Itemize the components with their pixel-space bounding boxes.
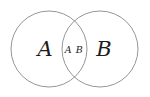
- intersection-label-ab: A B: [64, 44, 84, 55]
- set-label-b: B: [95, 37, 111, 61]
- set-label-a: A: [35, 37, 52, 61]
- venn-diagram-canvas: A A B B: [0, 0, 150, 97]
- venn-diagram-figure: A A B B: [0, 0, 150, 97]
